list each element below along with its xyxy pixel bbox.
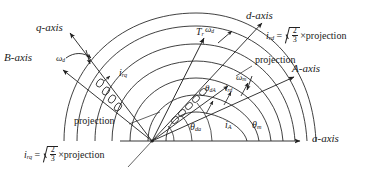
q-axis-label: q-axis	[36, 22, 63, 33]
projection-callout-top: projection	[255, 55, 296, 65]
omega-d-label-top: ωd	[205, 25, 214, 35]
theta-dA-label: θdA	[205, 84, 216, 94]
B-axis-line	[63, 70, 152, 141]
d-axis-label: d-axis	[246, 10, 273, 21]
equation-irq: irq = 23 ×projection	[24, 146, 104, 163]
iA-vector-line	[152, 86, 228, 141]
iA-vector-label: iA	[225, 120, 232, 131]
projection-callout-left: projection	[74, 116, 115, 126]
A-axis-label: A-axis	[292, 63, 320, 74]
theta-da-label: θda	[190, 122, 201, 133]
d-axis-extension	[128, 141, 152, 167]
figure-canvas: q-axis B-axis d-axis A-axis a-axis ωd ωd…	[0, 0, 378, 179]
A-axis-line	[152, 77, 294, 141]
irq-vector-label: irq	[119, 68, 127, 79]
projection-tick-1	[206, 101, 213, 114]
a-axis-label: a-axis	[312, 133, 339, 144]
omega-d-label-left: ωd	[56, 54, 65, 64]
omega-m-label: ωm	[236, 73, 246, 83]
omega-d-arrow-top	[218, 31, 232, 43]
theta-m-label: θm	[252, 120, 261, 131]
torque-vector-label: Tr	[196, 27, 204, 38]
B-axis-label: B-axis	[4, 52, 32, 63]
ird-vector-label: ird	[225, 84, 232, 94]
equation-ird: ird = 23 ×projection	[266, 27, 346, 44]
